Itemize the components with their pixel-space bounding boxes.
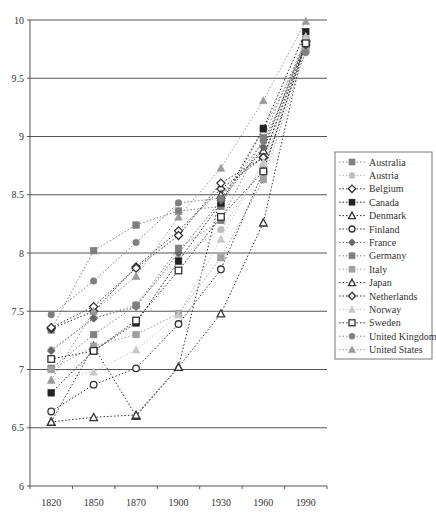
- square-marker-icon: [349, 199, 355, 205]
- square-marker-icon: [133, 222, 140, 229]
- circle-marker-icon: [133, 365, 140, 372]
- x-tick-label: 1900: [169, 497, 189, 508]
- legend-label: Norway: [369, 304, 401, 315]
- legend-label: Netherlands: [369, 291, 417, 302]
- triangle-marker-icon: [217, 164, 225, 171]
- circle-marker-icon: [218, 266, 225, 273]
- circle-marker-icon: [48, 408, 55, 415]
- circle-marker-icon: [260, 138, 267, 145]
- triangle-marker-icon: [175, 363, 183, 370]
- square-marker-icon: [218, 214, 225, 221]
- square-marker-icon: [48, 356, 55, 363]
- legend-label: Canada: [369, 197, 400, 208]
- y-tick-label: 6.5: [12, 422, 25, 433]
- square-marker-icon: [133, 331, 140, 338]
- triangle-marker-icon: [90, 413, 98, 420]
- x-axis: 1820185018701900193019601990: [30, 486, 327, 508]
- y-tick-label: 7: [19, 364, 24, 375]
- triangle-marker-icon: [217, 235, 225, 242]
- circle-marker-icon: [302, 49, 309, 56]
- square-marker-icon: [260, 168, 267, 175]
- triangle-marker-icon: [260, 219, 268, 226]
- square-marker-icon: [218, 254, 225, 261]
- square-marker-icon: [260, 125, 267, 132]
- square-marker-icon: [260, 176, 267, 183]
- diamond-marker-icon: [90, 314, 98, 322]
- y-tick-label: 9.5: [12, 73, 25, 84]
- circle-marker-icon: [349, 172, 355, 178]
- y-tick-label: 6: [19, 481, 24, 492]
- triangle-marker-icon: [47, 376, 55, 383]
- legend-label: Austria: [369, 170, 399, 181]
- square-marker-icon: [175, 245, 182, 252]
- x-tick-label: 1870: [126, 497, 146, 508]
- legend: AustraliaAustriaBelgiumCanadaDenmarkFinl…: [335, 152, 436, 359]
- circle-marker-icon: [175, 321, 182, 328]
- series-markers-austria: [48, 40, 309, 353]
- square-marker-icon: [48, 390, 55, 397]
- circle-marker-icon: [175, 200, 182, 207]
- square-marker-icon: [349, 266, 355, 272]
- square-marker-icon: [349, 320, 355, 326]
- legend-label: Italy: [369, 264, 387, 275]
- x-tick-label: 1990: [296, 497, 316, 508]
- legend-label: Sweden: [369, 317, 401, 328]
- square-marker-icon: [175, 258, 182, 265]
- triangle-marker-icon: [260, 97, 268, 104]
- legend-label: Belgium: [369, 183, 404, 194]
- circle-marker-icon: [349, 333, 355, 339]
- circle-marker-icon: [218, 226, 225, 233]
- circle-marker-icon: [349, 226, 355, 232]
- x-tick-label: 1930: [211, 497, 231, 508]
- legend-label: Japan: [369, 277, 392, 288]
- square-marker-icon: [302, 40, 309, 47]
- square-marker-icon: [175, 267, 182, 274]
- series-netherlands: [51, 44, 306, 327]
- square-marker-icon: [90, 247, 97, 254]
- square-marker-icon: [90, 348, 97, 355]
- series-line: [51, 42, 306, 351]
- circle-marker-icon: [90, 278, 97, 285]
- y-tick-label: 7.5: [12, 306, 25, 317]
- x-tick-label: 1960: [253, 497, 273, 508]
- series-markers-france: [47, 38, 310, 355]
- series-line: [51, 44, 306, 327]
- y-axis: 66.577.588.599.510: [12, 15, 31, 492]
- series-line: [51, 43, 306, 349]
- series-france: [51, 42, 306, 351]
- circle-marker-icon: [48, 311, 55, 318]
- legend-label: Denmark: [369, 210, 406, 221]
- circle-marker-icon: [218, 195, 225, 202]
- series-australia: [51, 47, 306, 330]
- y-tick-label: 9: [19, 131, 24, 142]
- series-line: [51, 47, 306, 330]
- circle-marker-icon: [133, 239, 140, 246]
- triangle-marker-icon: [302, 17, 310, 24]
- series-line: [51, 53, 306, 315]
- circle-marker-icon: [90, 381, 97, 388]
- x-tick-label: 1820: [41, 497, 61, 508]
- square-marker-icon: [90, 331, 97, 338]
- line-chart: 66.577.588.599.510 182018501870190019301…: [0, 0, 436, 513]
- series-belgium: [51, 41, 306, 329]
- square-marker-icon: [133, 302, 140, 309]
- series-united-kingdom: [51, 53, 306, 315]
- square-marker-icon: [48, 366, 55, 373]
- legend-label: Germany: [369, 250, 406, 261]
- x-tick-label: 1850: [84, 497, 104, 508]
- legend-label: Australia: [369, 157, 406, 168]
- triangle-marker-icon: [47, 418, 55, 425]
- y-tick-label: 8.5: [12, 189, 25, 200]
- triangle-marker-icon: [132, 273, 140, 280]
- series-markers-australia: [48, 43, 309, 333]
- series-markers-belgium: [47, 37, 310, 333]
- legend-label: Finland: [369, 224, 400, 235]
- square-marker-icon: [133, 317, 140, 324]
- y-tick-label: 10: [14, 15, 24, 26]
- legend-label: United States: [369, 344, 423, 355]
- series-markers-united-kingdom: [48, 49, 309, 318]
- series-austria: [51, 43, 306, 349]
- y-tick-label: 8: [19, 248, 24, 259]
- series-line: [51, 41, 306, 329]
- legend-label: United Kingdom: [369, 331, 436, 342]
